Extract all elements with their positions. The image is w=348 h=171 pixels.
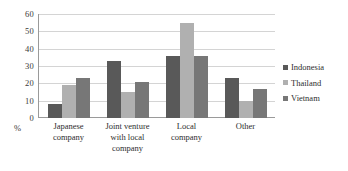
bar bbox=[62, 85, 76, 118]
legend-item[interactable]: Indonesia bbox=[283, 63, 324, 72]
category-label-line: Japanese bbox=[40, 121, 97, 132]
category-label-line: company bbox=[158, 132, 215, 143]
legend-swatch-icon bbox=[283, 80, 288, 85]
category-label-line: company bbox=[40, 132, 97, 143]
legend-item-label: Vietnam bbox=[291, 94, 320, 103]
legend-swatch-icon bbox=[283, 96, 288, 101]
bar-chart: 6050403020100 % JapanesecompanyJoint ven… bbox=[0, 0, 348, 171]
legend-item[interactable]: Vietnam bbox=[283, 94, 324, 103]
bar bbox=[107, 61, 121, 118]
legend-swatch-icon bbox=[283, 65, 288, 70]
y-axis-unit-label: % bbox=[14, 124, 21, 133]
x-axis-category-label: Other bbox=[216, 121, 275, 154]
category-label-line: Local bbox=[158, 121, 215, 132]
x-axis-category-label: Japanesecompany bbox=[39, 121, 98, 154]
y-axis-tick-label: 10 bbox=[25, 97, 34, 106]
bar bbox=[76, 78, 90, 118]
y-axis-tick-label: 30 bbox=[25, 62, 34, 71]
legend-item-label: Thailand bbox=[291, 79, 321, 88]
bar bbox=[225, 78, 239, 118]
bar bbox=[253, 89, 267, 118]
bar bbox=[239, 101, 253, 118]
category-label-line: Joint venture bbox=[99, 121, 156, 132]
legend-item[interactable]: Thailand bbox=[283, 79, 324, 88]
y-axis-tick-label: 20 bbox=[25, 79, 34, 88]
legend-item-label: Indonesia bbox=[291, 63, 324, 72]
bar-group bbox=[39, 14, 98, 118]
bar bbox=[166, 56, 180, 118]
x-axis-category-label: Localcompany bbox=[157, 121, 216, 154]
y-axis-tick-label: 40 bbox=[25, 45, 34, 54]
x-axis-category-labels: JapanesecompanyJoint venturewith localco… bbox=[39, 121, 275, 154]
bar bbox=[194, 56, 208, 118]
category-label-line: company bbox=[99, 143, 156, 154]
bar-groups bbox=[39, 14, 275, 118]
category-label-line: with local bbox=[99, 132, 156, 143]
bar bbox=[180, 23, 194, 118]
bar-group bbox=[98, 14, 157, 118]
bar bbox=[135, 82, 149, 118]
x-axis-category-label: Joint venturewith localcompany bbox=[98, 121, 157, 154]
category-label-line: Other bbox=[217, 121, 274, 132]
bar-group bbox=[157, 14, 216, 118]
bar bbox=[48, 104, 62, 118]
y-axis-tick-label: 50 bbox=[25, 27, 34, 36]
y-axis-tick-label: 60 bbox=[25, 10, 34, 19]
y-axis-tick-labels: 6050403020100 bbox=[12, 14, 34, 118]
y-axis-tick-label: 0 bbox=[30, 114, 34, 123]
bar-group bbox=[216, 14, 275, 118]
bar bbox=[121, 92, 135, 118]
legend: IndonesiaThailandVietnam bbox=[283, 63, 324, 103]
